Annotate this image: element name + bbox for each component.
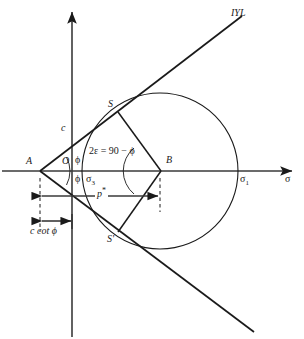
origin-label-o: O bbox=[62, 156, 69, 166]
figure-canvas: IYL S S' A O B c ϕ ϕ 2ε = 90 − ϕ σ3 σ1 σ… bbox=[0, 0, 304, 339]
mohr-circle-diagram bbox=[0, 0, 304, 339]
point-label-b: B bbox=[166, 155, 172, 165]
angle-arc-phi-lower bbox=[67, 171, 71, 185]
sigma-minor-subscript: 3 bbox=[91, 179, 95, 187]
p-star-superscript: * bbox=[102, 186, 106, 195]
c-cot-phi-label: c cot ϕ bbox=[30, 226, 57, 236]
angle-label-phi-lower: ϕ bbox=[75, 174, 80, 184]
sigma-major-subscript: 1 bbox=[245, 179, 249, 187]
sigma-minor-label: σ3 bbox=[86, 174, 95, 187]
p-star-label: p* bbox=[95, 187, 108, 199]
point-label-a: A bbox=[26, 156, 32, 166]
axis-label-sigma: σ bbox=[285, 174, 290, 184]
envelope-label-iyl: IYL bbox=[231, 8, 245, 18]
wedge-angle-label: 2ε = 90 − ϕ bbox=[89, 146, 135, 156]
point-label-s-prime: S' bbox=[107, 234, 114, 244]
sigma-major-label: σ1 bbox=[240, 174, 249, 187]
cohesion-label-c: c bbox=[61, 123, 65, 133]
point-label-s: S bbox=[108, 99, 113, 109]
upper-failure-envelope-line bbox=[40, 16, 242, 171]
angle-label-phi-upper: ϕ bbox=[75, 155, 80, 165]
